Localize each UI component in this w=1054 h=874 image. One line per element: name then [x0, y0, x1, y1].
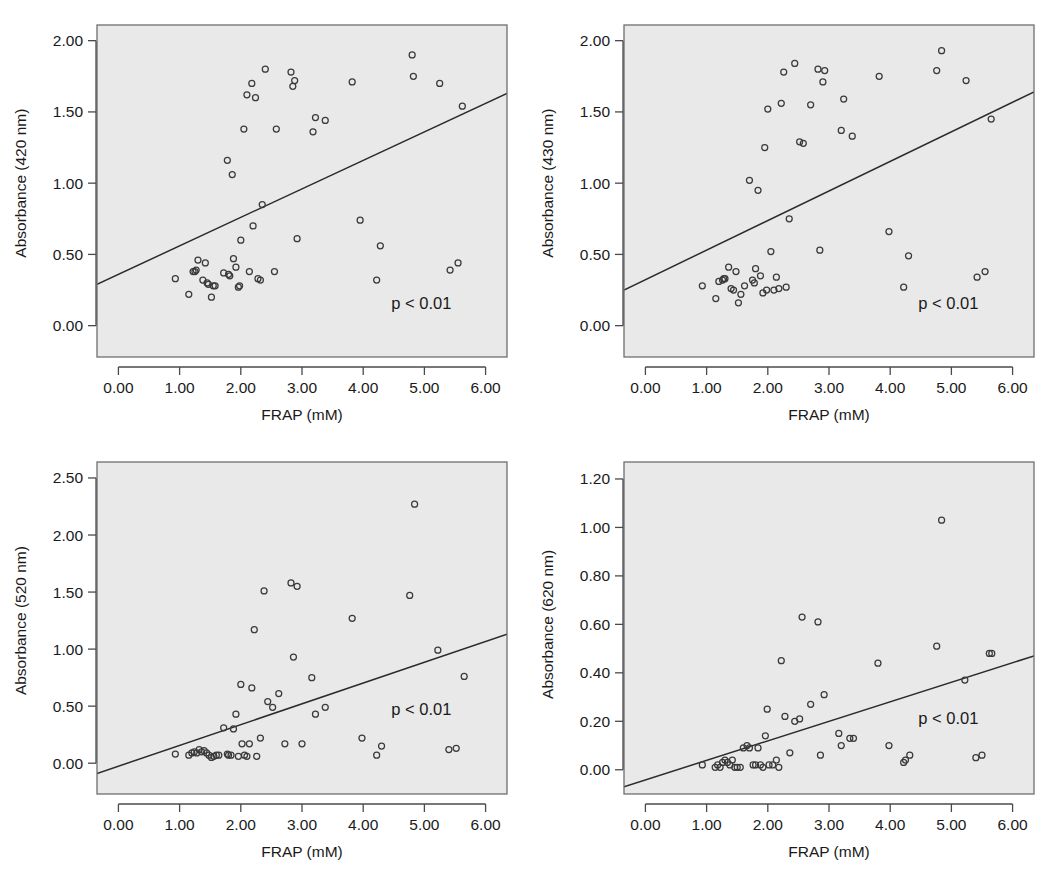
y-axis-title: Absorbance (620 nm): [539, 550, 556, 699]
y-tick-label: 2.00: [53, 527, 84, 544]
scatter-panel-panel-420: 0.000.501.001.502.000.001.002.003.004.00…: [0, 0, 527, 437]
x-tick-label: 3.00: [287, 816, 318, 833]
y-tick-label: 0.00: [53, 317, 84, 334]
scatter-panel-panel-520: 0.000.501.001.502.002.500.001.002.003.00…: [0, 437, 527, 874]
y-tick-label: 0.50: [53, 246, 84, 263]
y-tick-label: 1.50: [53, 103, 84, 120]
x-tick-label: 2.00: [226, 379, 257, 396]
x-tick-label: 0.00: [630, 379, 661, 396]
y-tick-label: 0.50: [580, 246, 611, 263]
x-axis-title: FRAP (mM): [788, 406, 870, 423]
y-tick-label: 0.50: [53, 698, 84, 715]
x-axis: 0.001.002.003.004.005.006.00: [630, 804, 1028, 833]
x-tick-label: 6.00: [470, 816, 501, 833]
x-axis-title: FRAP (mM): [788, 843, 870, 860]
x-tick-label: 2.00: [753, 816, 784, 833]
y-tick-label: 0.80: [580, 567, 611, 584]
y-axis-title: Absorbance (520 nm): [12, 546, 29, 695]
plot-area-background: [97, 462, 507, 794]
x-tick-label: 1.00: [692, 379, 723, 396]
x-tick-label: 0.00: [630, 816, 661, 833]
x-tick-label: 4.00: [875, 816, 906, 833]
four-panel-scatter-figure: 0.000.501.001.502.000.001.002.003.004.00…: [0, 0, 1054, 874]
x-tick-label: 5.00: [409, 816, 440, 833]
x-tick-label: 4.00: [875, 379, 906, 396]
p-value-annotation: p < 0.01: [918, 294, 978, 312]
x-tick-label: 2.00: [753, 379, 784, 396]
y-tick-label: 1.00: [53, 175, 84, 192]
y-axis: 0.000.501.001.502.002.50: [53, 469, 96, 771]
x-axis: 0.001.002.003.004.005.006.00: [103, 367, 501, 396]
y-tick-label: 1.00: [580, 519, 611, 536]
y-tick-label: 0.00: [580, 761, 611, 778]
y-tick-label: 0.20: [580, 713, 611, 730]
y-tick-label: 2.00: [580, 32, 611, 49]
x-tick-label: 6.00: [997, 816, 1028, 833]
scatter-panel-panel-430: 0.000.501.001.502.000.001.002.003.004.00…: [527, 0, 1054, 437]
x-tick-label: 4.00: [348, 816, 379, 833]
x-tick-label: 5.00: [409, 379, 440, 396]
x-tick-label: 3.00: [814, 816, 845, 833]
plot-area-background: [624, 462, 1034, 794]
x-tick-label: 2.00: [226, 816, 257, 833]
x-tick-label: 3.00: [287, 379, 318, 396]
x-tick-label: 1.00: [165, 379, 196, 396]
p-value-annotation: p < 0.01: [391, 294, 451, 312]
x-axis-title: FRAP (mM): [261, 406, 343, 423]
x-axis-title: FRAP (mM): [261, 843, 343, 860]
scatter-panel-panel-620: 0.000.200.400.600.801.001.200.001.002.00…: [527, 437, 1054, 874]
y-axis: 0.000.200.400.600.801.001.20: [580, 470, 623, 778]
y-tick-label: 1.50: [53, 584, 84, 601]
x-tick-label: 1.00: [692, 816, 723, 833]
y-axis-title: Absorbance (430 nm): [539, 109, 556, 258]
y-axis-title: Absorbance (420 nm): [12, 109, 29, 258]
y-tick-label: 1.20: [580, 470, 611, 487]
y-tick-label: 2.00: [53, 32, 84, 49]
p-value-annotation: p < 0.01: [391, 700, 451, 718]
y-tick-label: 1.00: [53, 641, 84, 658]
x-tick-label: 6.00: [997, 379, 1028, 396]
y-axis: 0.000.501.001.502.00: [53, 32, 96, 334]
x-tick-label: 0.00: [103, 379, 134, 396]
x-tick-label: 5.00: [936, 816, 967, 833]
y-tick-label: 1.50: [580, 103, 611, 120]
x-tick-label: 0.00: [103, 816, 134, 833]
x-axis: 0.001.002.003.004.005.006.00: [103, 804, 501, 833]
y-tick-label: 0.40: [580, 664, 611, 681]
y-tick-label: 0.00: [53, 755, 84, 772]
x-tick-label: 3.00: [814, 379, 845, 396]
x-tick-label: 4.00: [348, 379, 379, 396]
y-tick-label: 0.60: [580, 616, 611, 633]
p-value-annotation: p < 0.01: [918, 709, 978, 727]
x-tick-label: 5.00: [936, 379, 967, 396]
y-tick-label: 0.00: [580, 317, 611, 334]
x-axis: 0.001.002.003.004.005.006.00: [630, 367, 1028, 396]
y-axis: 0.000.501.001.502.00: [580, 32, 623, 334]
x-tick-label: 6.00: [470, 379, 501, 396]
y-tick-label: 2.50: [53, 469, 84, 486]
x-tick-label: 1.00: [165, 816, 196, 833]
y-tick-label: 1.00: [580, 175, 611, 192]
